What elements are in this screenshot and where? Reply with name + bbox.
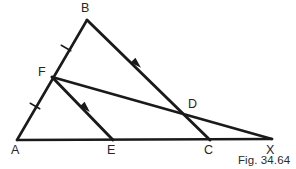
- segment-BC: [87, 20, 210, 140]
- geometry-figure: A B C D E F X Fig. 34.64: [0, 0, 296, 169]
- vertex-label-f: F: [38, 66, 46, 79]
- vertex-label-c: C: [204, 144, 213, 157]
- vertex-label-d: D: [188, 98, 197, 111]
- vertex-label-a: A: [11, 144, 20, 157]
- figure-drawing-canvas: [0, 0, 296, 169]
- segment-AB: [17, 20, 87, 140]
- segment-AX: [17, 139, 272, 140]
- figure-caption: Fig. 34.64: [238, 154, 290, 166]
- vertex-label-e: E: [107, 144, 116, 157]
- vertex-label-b: B: [81, 2, 90, 15]
